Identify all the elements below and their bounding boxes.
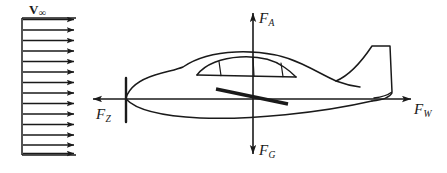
force-axes: [93, 13, 411, 154]
vertical-stabilizer: [336, 46, 392, 98]
figure-aircraft-force-diagram: V∞ FA FG FZ FW: [0, 0, 447, 173]
freestream-velocity-profile: [22, 18, 76, 155]
fuselage-upper: [126, 52, 360, 98]
force-label-thrust: FW: [414, 102, 431, 117]
canopy-divider: [219, 62, 221, 76]
canopy-window-dividers: [219, 58, 283, 77]
diagram-canvas: [0, 0, 447, 173]
force-label-weight: FG: [259, 143, 275, 158]
fuselage-lower: [126, 99, 372, 118]
freestream-velocity-label: V∞: [29, 3, 46, 16]
force-label-lift: FA: [259, 11, 274, 26]
aircraft: [126, 46, 392, 122]
force-label-drag: FZ: [96, 107, 111, 122]
wing: [216, 89, 288, 104]
canopy-rail: [197, 75, 296, 77]
velocity-arrows: [23, 20, 74, 154]
